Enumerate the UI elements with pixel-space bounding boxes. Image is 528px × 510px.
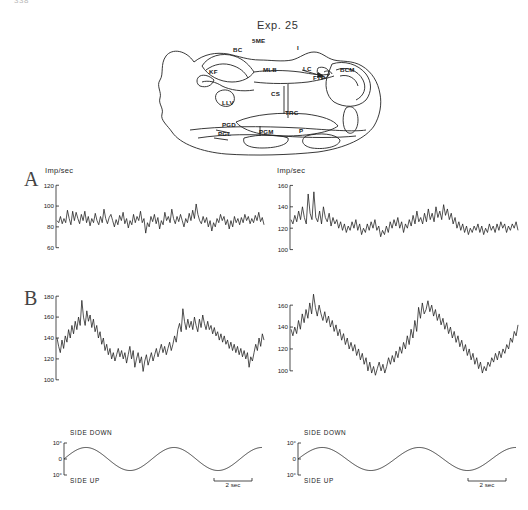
brain-label-i: I	[297, 44, 299, 51]
brain-label-pgl: PGL	[218, 130, 231, 137]
brain-label-kf: KF	[209, 68, 218, 75]
y-tick-label: 160	[278, 302, 289, 309]
brainstem-diagram: 5MEBCKFMLBILCFTPBCMCSLLVTRCPGDPGLPGMP	[150, 26, 390, 156]
tilt-label-side-up: SIDE UP	[304, 477, 334, 484]
y-tick-label: 160	[44, 313, 55, 320]
figure-root: 338 Exp. 25	[0, 0, 528, 510]
brain-label-pgd: PGD	[222, 121, 236, 128]
tilt-sinusoid-path	[64, 447, 262, 470]
y-tick-label: 180	[44, 293, 55, 300]
y-tick-label: 140	[278, 203, 289, 210]
tilt-tick-zero-label: 0	[59, 455, 63, 462]
time-scale-bar-label: 2 sec	[226, 481, 241, 488]
tilt-tick-down-label: 10°	[53, 471, 63, 478]
panel-a-right-axis-caption: Imp/sec	[277, 166, 305, 175]
panel-letter-a: A	[24, 168, 38, 191]
page-number: 338	[14, 0, 29, 5]
brain-label-trc: TRC	[285, 109, 299, 116]
y-tick-label: 100	[44, 202, 55, 209]
rate-trace-path	[57, 204, 264, 233]
y-tick-label: 140	[44, 334, 55, 341]
brain-label-cs: CS	[271, 90, 280, 97]
brain-label-5me: 5ME	[252, 37, 265, 44]
y-tick-label: 100	[278, 367, 289, 374]
tilt-sinusoid-path	[298, 447, 516, 470]
tilt-tick-up-label: 10°	[287, 439, 297, 446]
y-tick-label: 100	[44, 376, 55, 383]
rate-trace-path	[291, 294, 518, 375]
y-tick-label: 160	[278, 182, 289, 189]
panel-b-right-chart: 160140120100	[272, 288, 520, 388]
panel-a-left-axis-caption: Imp/sec	[45, 166, 73, 175]
panel-a-left-chart: 1201008060	[38, 175, 266, 260]
tilt-trace-right-chart: SIDE DOWNSIDE UP10°010°2 sec	[272, 423, 520, 495]
brain-label-ftp: FTP	[313, 74, 325, 81]
y-tick-label: 60	[47, 244, 54, 251]
tilt-label-side-up: SIDE UP	[70, 477, 100, 484]
tilt-label-side-down: SIDE DOWN	[304, 429, 346, 436]
rate-trace-path	[291, 192, 518, 237]
brain-label-lc: LC	[303, 65, 312, 72]
panel-a-right-chart: 160140120100	[272, 175, 520, 260]
tilt-trace-left-chart: SIDE DOWNSIDE UP10°010°2 sec	[38, 423, 266, 495]
y-tick-label: 120	[44, 355, 55, 362]
y-tick-label: 80	[47, 223, 54, 230]
y-tick-label: 120	[278, 345, 289, 352]
tilt-tick-zero-label: 0	[293, 455, 297, 462]
tilt-tick-down-label: 10°	[287, 471, 297, 478]
brain-label-pgm: PGM	[259, 128, 274, 135]
y-tick-label: 120	[44, 182, 55, 189]
brain-label-mlb: MLB	[263, 66, 277, 73]
tilt-label-side-down: SIDE DOWN	[70, 429, 112, 436]
panel-b-left-chart: 180160140120100	[38, 288, 266, 388]
rate-trace-path	[57, 300, 264, 371]
y-tick-label: 120	[278, 225, 289, 232]
tilt-tick-up-label: 10°	[53, 439, 63, 446]
brain-label-p: P	[299, 127, 303, 134]
brain-label-group: 5MEBCKFMLBILCFTPBCMCSLLVTRCPGDPGLPGMP	[209, 37, 355, 137]
panel-letter-b: B	[24, 287, 37, 310]
brain-label-bcm: BCM	[340, 66, 355, 73]
y-tick-label: 100	[278, 246, 289, 253]
brain-label-bc: BC	[233, 46, 243, 53]
time-scale-bar-label: 2 sec	[480, 481, 495, 488]
y-tick-label: 140	[278, 323, 289, 330]
brain-label-llv: LLV	[222, 99, 234, 106]
